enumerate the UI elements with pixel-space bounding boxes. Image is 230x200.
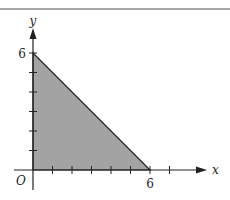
shaded-region [33, 53, 150, 170]
x-tick-label-6: 6 [146, 177, 154, 191]
x-axis-arrow-icon [196, 167, 207, 174]
origin-label: O [16, 174, 26, 188]
graph: 6 6 x y O [0, 0, 230, 200]
y-tick-label-6: 6 [18, 47, 26, 61]
y-axis-arrow-icon [30, 28, 37, 39]
y-axis-label: y [29, 14, 37, 28]
x-axis-label: x [212, 163, 219, 177]
